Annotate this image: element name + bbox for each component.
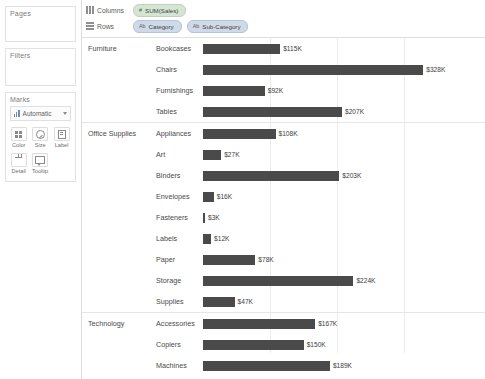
bar-value-label: $167K bbox=[318, 320, 337, 327]
table-row[interactable]: Copiers$150K bbox=[156, 334, 485, 355]
bar-value-label: $150K bbox=[307, 341, 326, 348]
marks-button-label-label: Label bbox=[55, 142, 69, 148]
bar-container: $12K bbox=[203, 228, 485, 249]
bar-mark[interactable] bbox=[203, 86, 265, 96]
sub-category-rows: Bookcases$115KChairs$328KFurnishings$92K… bbox=[156, 38, 485, 122]
marks-button-detail-label: Detail bbox=[12, 168, 26, 174]
marks-card-title: Marks bbox=[6, 93, 75, 105]
bar-mark[interactable] bbox=[203, 44, 280, 54]
table-row[interactable]: Accessories$167K bbox=[156, 313, 485, 334]
color-icon bbox=[11, 127, 27, 141]
table-row[interactable]: Storage$224K bbox=[156, 270, 485, 291]
category-label: Office Supplies bbox=[82, 123, 156, 312]
size-icon bbox=[32, 127, 48, 141]
bar-value-label: $92K bbox=[268, 87, 283, 94]
sub-category-label: Art bbox=[156, 150, 203, 159]
pill-sum-sales[interactable]: # SUM(Sales) bbox=[133, 4, 186, 17]
marks-button-color[interactable]: Color bbox=[8, 125, 29, 151]
bar-value-label: $47K bbox=[238, 298, 253, 305]
marks-button-tooltip-label: Tooltip bbox=[32, 168, 48, 174]
measure-icon: # bbox=[139, 7, 142, 13]
sub-category-rows: Accessories$167KCopiers$150KMachines$189… bbox=[156, 313, 485, 379]
bar-container: $207K bbox=[203, 101, 485, 122]
marks-button-tooltip[interactable]: Tooltip bbox=[29, 151, 50, 177]
sub-category-label: Furnishings bbox=[156, 86, 203, 95]
bar-mark[interactable] bbox=[203, 171, 339, 181]
shelves-area: Columns # SUM(Sales) Rows Ab Category Ab… bbox=[82, 0, 485, 38]
bar-container: $224K bbox=[203, 270, 485, 291]
table-row[interactable]: Tables$207K bbox=[156, 101, 485, 122]
table-row[interactable]: Paper$78K bbox=[156, 249, 485, 270]
table-row[interactable]: Chairs$328K bbox=[156, 59, 485, 80]
bar-value-label: $3K bbox=[208, 214, 220, 221]
dimension-icon: Ab bbox=[139, 23, 146, 29]
worksheet-main: Columns # SUM(Sales) Rows Ab Category Ab… bbox=[82, 0, 485, 379]
table-row[interactable]: Fasteners$3K bbox=[156, 207, 485, 228]
table-row[interactable]: Furnishings$92K bbox=[156, 80, 485, 101]
tableau-worksheet: Pages Filters Marks Automatic Color bbox=[0, 0, 485, 379]
table-row[interactable]: Labels$12K bbox=[156, 228, 485, 249]
bar-container: $328K bbox=[203, 59, 485, 80]
bar-container: $167K bbox=[203, 313, 485, 334]
marks-button-label[interactable]: Label bbox=[51, 125, 72, 151]
dimension-icon: Ab bbox=[193, 23, 200, 29]
bar-mark[interactable] bbox=[203, 276, 353, 286]
pill-sum-sales-text: SUM(Sales) bbox=[145, 7, 178, 14]
bar-value-label: $115K bbox=[283, 45, 302, 52]
table-row[interactable]: Bookcases$115K bbox=[156, 38, 485, 59]
marks-button-color-label: Color bbox=[12, 142, 25, 148]
bar-mark[interactable] bbox=[203, 65, 423, 75]
bar-value-label: $78K bbox=[258, 256, 273, 263]
bar-mark[interactable] bbox=[203, 213, 205, 223]
sub-category-rows: Appliances$108KArt$27KBinders$203KEnvelo… bbox=[156, 123, 485, 312]
sub-category-label: Machines bbox=[156, 361, 203, 370]
rows-shelf-label: Rows bbox=[97, 23, 133, 30]
bar-mark[interactable] bbox=[203, 319, 315, 329]
marks-type-dropdown[interactable]: Automatic bbox=[10, 106, 71, 121]
table-row[interactable]: Envelopes$16K bbox=[156, 186, 485, 207]
marks-button-detail[interactable]: Detail bbox=[8, 151, 29, 177]
bar-container: $16K bbox=[203, 186, 485, 207]
bar-container: $78K bbox=[203, 249, 485, 270]
bar-mark[interactable] bbox=[203, 129, 276, 139]
sub-category-label: Storage bbox=[156, 276, 203, 285]
marks-card: Marks Automatic Color Size bbox=[5, 92, 76, 182]
table-row[interactable]: Machines$189K bbox=[156, 355, 485, 376]
bar-mark[interactable] bbox=[203, 234, 211, 244]
table-row[interactable]: Appliances$108K bbox=[156, 123, 485, 144]
sub-category-label: Paper bbox=[156, 255, 203, 264]
bar-mark[interactable] bbox=[203, 150, 221, 160]
filters-card[interactable]: Filters bbox=[5, 48, 76, 86]
bar-value-label: $203K bbox=[342, 172, 361, 179]
table-row[interactable]: Art$27K bbox=[156, 144, 485, 165]
bar-mark[interactable] bbox=[203, 297, 235, 307]
bar-container: $115K bbox=[203, 38, 485, 59]
table-row[interactable]: Supplies$47K bbox=[156, 291, 485, 312]
sub-category-label: Binders bbox=[156, 171, 203, 180]
columns-shelf[interactable]: Columns # SUM(Sales) bbox=[82, 3, 485, 17]
table-row[interactable]: Binders$203K bbox=[156, 165, 485, 186]
bar-mark[interactable] bbox=[203, 340, 304, 350]
filters-card-title: Filters bbox=[6, 49, 75, 61]
pill-sub-category-text: Sub-Category bbox=[202, 23, 240, 30]
sub-category-label: Supplies bbox=[156, 297, 203, 306]
chevron-down-icon[interactable] bbox=[63, 112, 67, 115]
columns-icon bbox=[86, 6, 94, 14]
pill-category[interactable]: Ab Category bbox=[133, 20, 182, 33]
bar-value-label: $16K bbox=[217, 193, 232, 200]
sub-category-label: Bookcases bbox=[156, 44, 203, 53]
rows-shelf[interactable]: Rows Ab Category Ab Sub-Category bbox=[82, 19, 485, 33]
bar-mark[interactable] bbox=[203, 361, 330, 371]
bar-mark[interactable] bbox=[203, 107, 342, 117]
marks-button-size[interactable]: Size bbox=[29, 125, 50, 151]
bar-mark[interactable] bbox=[203, 192, 214, 202]
bar-chart-icon bbox=[14, 111, 20, 117]
bar-mark[interactable] bbox=[203, 255, 255, 265]
bar-value-label: $27K bbox=[224, 151, 239, 158]
bar-container: $3K bbox=[203, 207, 485, 228]
pages-card[interactable]: Pages bbox=[5, 6, 76, 42]
pill-sub-category[interactable]: Ab Sub-Category bbox=[187, 20, 249, 33]
visualization-pane[interactable]: FurnitureBookcases$115KChairs$328KFurnis… bbox=[82, 38, 485, 379]
bar-container: $189K bbox=[203, 355, 485, 376]
bar-container: $27K bbox=[203, 144, 485, 165]
